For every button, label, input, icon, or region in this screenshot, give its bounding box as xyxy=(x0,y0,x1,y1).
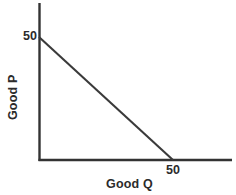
budget-constraint-line xyxy=(39,37,173,160)
x-axis-tick-label-50: 50 xyxy=(163,164,183,177)
chart-container: 50 50 Good P Good Q xyxy=(0,0,236,195)
y-axis-title: Good P xyxy=(0,0,26,195)
y-axis-title-text: Good P xyxy=(7,75,20,121)
x-axis-title: Good Q xyxy=(39,178,220,191)
